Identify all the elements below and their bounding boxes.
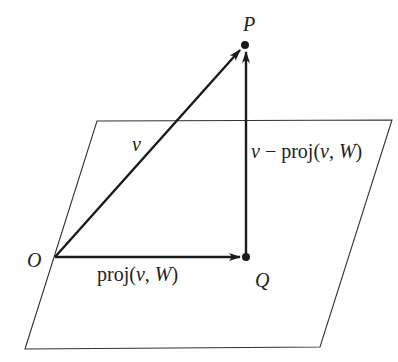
point-q-label: Q — [255, 270, 269, 290]
point-p-label: P — [243, 14, 255, 34]
proj-label-space: W — [155, 263, 172, 285]
vector-v-label: v — [132, 134, 141, 154]
point-o-label: O — [27, 250, 41, 270]
residual-label-suffix: ) — [356, 140, 363, 162]
residual-label-var2: v — [320, 140, 329, 162]
proj-label-prefix: proj( — [97, 263, 136, 285]
proj-label-var: v — [136, 263, 145, 285]
residual-label-minus: − proj( — [260, 140, 320, 162]
proj-label-sep: , — [145, 263, 155, 285]
residual-label-sep: , — [329, 140, 339, 162]
point-p-dot — [241, 41, 249, 49]
projection-diagram — [0, 0, 398, 362]
proj-label-suffix: ) — [171, 263, 178, 285]
vector-v-arrow — [55, 50, 240, 257]
vector-proj-label: proj(v, W) — [97, 264, 178, 284]
residual-label-space: W — [339, 140, 356, 162]
residual-label-var: v — [251, 140, 260, 162]
vector-residual-label: v − proj(v, W) — [251, 141, 362, 161]
point-q-dot — [242, 253, 250, 261]
